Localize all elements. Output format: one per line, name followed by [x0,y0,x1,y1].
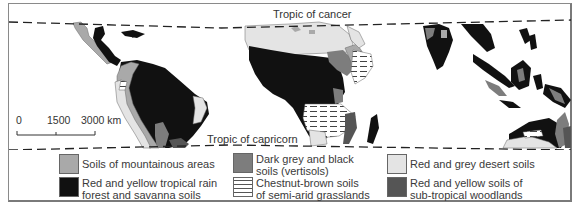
tropical-soils-map: Tropic of cancer Tropic of capricorn 0 1… [9,4,571,150]
legend-swatch-vertisols [233,153,253,173]
legend-label-group: Red and yellow soils of sub-tropical woo… [410,177,523,201]
legend-label-line: forest and savanna soils [82,189,217,201]
legend-label-group: Chestnut-brown soils of semi-arid grassl… [256,177,370,201]
map-graphic [9,4,571,150]
legend-item-chestnut-brown: Chestnut-brown soils of semi-arid grassl… [233,177,370,201]
legend-item-desert: Red and grey desert soils [387,154,535,174]
legend: Soils of mountainous areas Dark grey and… [9,152,571,202]
legend-swatch-desert [387,154,407,174]
legend-label-line: Red and yellow soils of [410,177,523,189]
scale-bar-line [17,131,95,135]
legend-swatch-chestnut-brown [233,177,253,197]
tropic-of-capricorn-line [9,145,571,150]
legend-label-line: Dark grey and black [256,153,354,165]
legend-item-vertisols: Dark grey and black soils (vertisols) [233,153,354,177]
legend-item-rainforest: Red and yellow tropical rain forest and … [59,177,217,201]
legend-label-group: Red and yellow tropical rain forest and … [82,177,217,201]
legend-item-mountainous: Soils of mountainous areas [59,154,215,174]
legend-swatch-subtropical [387,177,407,197]
legend-label-line: sub-tropical woodlands [410,189,523,201]
legend-label-line: Red and yellow tropical rain [82,177,217,189]
legend-label-group: Dark grey and black soils (vertisols) [256,153,354,177]
legend-label-line: Chestnut-brown soils [256,177,370,189]
legend-label: Soils of mountainous areas [82,158,215,170]
tropic-of-cancer-label: Tropic of cancer [271,8,353,20]
tropic-of-capricorn-label: Tropic of capricorn [205,133,300,145]
scale-tick-0: 0 [16,114,22,126]
legend-swatch-rainforest [59,177,79,197]
legend-swatch-mountainous [59,154,79,174]
map-figure: Tropic of cancer Tropic of capricorn 0 1… [8,3,572,202]
legend-label-line: of semi-arid grasslands [256,189,370,201]
legend-label: Red and grey desert soils [410,158,535,170]
legend-label-line: soils (vertisols) [256,165,354,177]
legend-item-subtropical: Red and yellow soils of sub-tropical woo… [387,177,523,201]
scale-tick-3000: 3000 km [81,114,121,126]
scale-tick-1500: 1500 [47,114,70,126]
